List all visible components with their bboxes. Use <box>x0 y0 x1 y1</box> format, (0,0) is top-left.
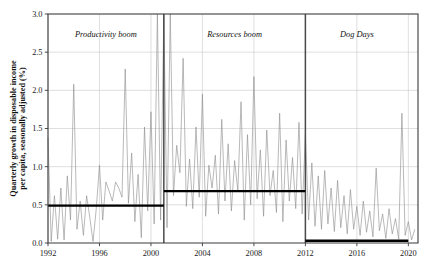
y-tick-label: 3.0 <box>32 10 42 19</box>
x-tick-label: 1992 <box>40 249 57 258</box>
y-axis-title-line1: Quarterly growth in disposable income <box>9 60 18 197</box>
period-annotation-label: Productivity boom <box>74 30 137 39</box>
x-tick-label: 2000 <box>143 249 160 258</box>
chart-svg: 0.00.51.01.52.02.53.01992199620002004200… <box>0 0 440 276</box>
y-tick-label: 1.0 <box>32 163 42 172</box>
y-tick-label: 2.0 <box>32 86 42 95</box>
x-tick-label: 2008 <box>246 249 263 258</box>
y-axis-title-group: Quarterly growth in disposable incomeper… <box>9 60 27 197</box>
period-annotation-label: Dog Days <box>339 30 374 39</box>
x-tick-label: 2016 <box>349 249 366 258</box>
chart-figure: 0.00.51.01.52.02.53.01992199620002004200… <box>0 0 440 276</box>
y-tick-label: 0.5 <box>32 201 42 210</box>
x-tick-label: 1996 <box>91 249 108 258</box>
y-axis-title-line2: per capita, seasonally adjusted (%) <box>18 67 27 190</box>
x-tick-label: 2020 <box>400 249 417 258</box>
x-tick-label: 2012 <box>297 249 314 258</box>
y-tick-label: 0.0 <box>32 239 42 248</box>
y-tick-label: 2.5 <box>32 48 42 57</box>
chart-background <box>0 0 440 276</box>
y-tick-label: 1.5 <box>32 124 42 133</box>
period-annotation-label: Resources boom <box>206 30 262 39</box>
x-tick-label: 2004 <box>194 249 211 258</box>
